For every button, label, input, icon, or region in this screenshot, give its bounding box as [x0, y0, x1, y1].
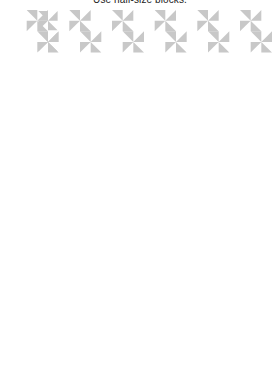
quilt-diagram — [0, 0, 280, 373]
